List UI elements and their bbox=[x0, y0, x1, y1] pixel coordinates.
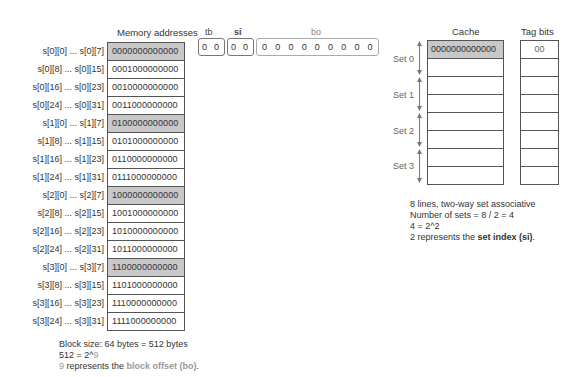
cache-line bbox=[428, 59, 503, 77]
memory-address-cell: 1111000000000 bbox=[108, 313, 184, 331]
block-offset-term: block offset (bo) bbox=[127, 361, 197, 371]
tag-bits-table: 00 bbox=[520, 40, 559, 185]
set-2-range-arrow-icon bbox=[416, 113, 423, 147]
cache-line bbox=[428, 113, 503, 131]
block-offset-text: represents the bbox=[64, 361, 127, 371]
cache-line bbox=[428, 149, 503, 167]
memory-row-label: s[3][24] ... s[3][31] bbox=[32, 312, 104, 330]
memory-row-label: s[3][16] ... s[3][23] bbox=[32, 294, 104, 312]
cache-title: Cache bbox=[452, 26, 479, 37]
tag-bits-cell bbox=[521, 131, 558, 149]
memory-address-cell: 1001000000000 bbox=[108, 205, 184, 223]
block-offset-bit: 0 bbox=[271, 42, 284, 52]
memory-row-label: s[1][0] ... s[1][7] bbox=[42, 114, 104, 132]
set-index-bit: 0 bbox=[241, 42, 250, 52]
block-offset-bit: 0 bbox=[324, 42, 337, 52]
block-size-line: Block size: 64 bytes = 512 bytes bbox=[59, 339, 199, 350]
memory-row-label: s[2][8] ... s[2][15] bbox=[37, 204, 104, 222]
set-1-range-arrow-icon bbox=[416, 77, 423, 111]
cache-lines-line: 8 lines, two-way set associative bbox=[410, 199, 536, 210]
set-index-term: set index (si) bbox=[478, 232, 533, 242]
tag-bits-cell bbox=[521, 113, 558, 131]
memory-row-label: s[3][8] ... s[3][15] bbox=[37, 276, 104, 294]
memory-row-label: s[0][8] ... s[0][15] bbox=[37, 60, 104, 78]
memory-row-label: s[1][24] ... s[1][31] bbox=[32, 168, 104, 186]
sets-power-line: 4 = 2^2 bbox=[410, 221, 536, 232]
cache-line bbox=[428, 77, 503, 95]
memory-row-label: s[3][0] ... s[3][7] bbox=[42, 258, 104, 276]
memory-address-cell: 1101000000000 bbox=[108, 277, 184, 295]
set-3-range-arrow-icon bbox=[416, 149, 423, 183]
number-of-sets-line: Number of sets = 8 / 2 = 4 bbox=[410, 210, 536, 221]
memory-address-cell: 1000000000000 bbox=[108, 187, 184, 205]
set-index-line: 2 represents the set index (si). bbox=[410, 232, 536, 243]
tag-bit: 0 bbox=[200, 42, 209, 52]
block-offset-bit: 0 bbox=[337, 42, 350, 52]
memory-row-label: s[1][8] ... s[1][15] bbox=[37, 132, 104, 150]
memory-row-label: s[2][24] ... s[2][31] bbox=[32, 240, 104, 258]
memory-address-cell: 0010000000000 bbox=[108, 79, 184, 97]
cache-line bbox=[428, 167, 503, 185]
tag-bit: 0 bbox=[212, 42, 221, 52]
memory-row-label: s[0][0] ... s[0][7] bbox=[42, 42, 104, 60]
set-index-bit: 0 bbox=[229, 42, 238, 52]
block-offset-bit: 0 bbox=[284, 42, 297, 52]
memory-address-cell: 1110000000000 bbox=[108, 295, 184, 313]
cache-line: 0000000000000 bbox=[428, 41, 503, 59]
tag-bits-cell bbox=[521, 149, 558, 167]
memory-address-cell: 0111000000000 bbox=[108, 169, 184, 187]
tb-label: tb bbox=[205, 27, 213, 37]
tag-bits-cell: 00 bbox=[521, 41, 558, 59]
block-offset-bit: 0 bbox=[311, 42, 324, 52]
tag-bits-title: Tag bits bbox=[521, 26, 554, 37]
block-offset-bit: 0 bbox=[350, 42, 363, 52]
set-label-1: Set 1 bbox=[393, 90, 414, 100]
memory-address-cell: 0011000000000 bbox=[108, 97, 184, 115]
block-size-notes: Block size: 64 bytes = 512 bytes 512 = 2… bbox=[59, 339, 199, 372]
block-offset-bit: 0 bbox=[258, 42, 271, 52]
tag-bits-cell bbox=[521, 95, 558, 113]
block-power-base: 512 = 2^ bbox=[59, 350, 94, 360]
memory-address-cell: 0001000000000 bbox=[108, 61, 184, 79]
block-offset-end: . bbox=[197, 361, 200, 371]
memory-address-cell: 0000000000000 bbox=[108, 43, 184, 61]
tag-bits-cell bbox=[521, 167, 558, 185]
memory-row-label: s[0][16] ... s[0][23] bbox=[32, 78, 104, 96]
set-label-3: Set 3 bbox=[393, 161, 414, 171]
memory-row-label: s[2][16] ... s[2][23] bbox=[32, 222, 104, 240]
tag-bits-field: 0 0 bbox=[198, 38, 225, 56]
block-offset-line: 9 represents the block offset (bo). bbox=[59, 361, 199, 372]
set-index-end: . bbox=[533, 232, 536, 242]
memory-addresses-title: Memory addresses bbox=[117, 27, 198, 38]
memory-row-label: s[0][24] ... s[0][31] bbox=[32, 96, 104, 114]
block-offset-field: 0 0 0 0 0 0 0 0 0 bbox=[256, 38, 379, 56]
block-power-exponent: 9 bbox=[94, 350, 99, 360]
tag-bits-cell bbox=[521, 77, 558, 95]
memory-address-table: 0000000000000 0001000000000 001000000000… bbox=[107, 42, 185, 331]
cache-table: 0000000000000 bbox=[427, 40, 504, 185]
set-label-0: Set 0 bbox=[393, 54, 414, 64]
set-index-text: 2 represents the bbox=[410, 232, 478, 242]
memory-address-cell: 1011000000000 bbox=[108, 241, 184, 259]
memory-address-cell: 0110000000000 bbox=[108, 151, 184, 169]
memory-address-cell: 0101000000000 bbox=[108, 133, 184, 151]
block-power-line: 512 = 2^9 bbox=[59, 350, 199, 361]
set-0-range-arrow-icon bbox=[416, 41, 423, 75]
memory-address-cell: 0100000000000 bbox=[108, 115, 184, 133]
block-offset-bit: 0 bbox=[298, 42, 311, 52]
set-index-field: 0 0 bbox=[227, 38, 254, 56]
memory-address-cell: 1010000000000 bbox=[108, 223, 184, 241]
set-label-2: Set 2 bbox=[393, 126, 414, 136]
memory-row-label: s[2][0] ... s[2][7] bbox=[42, 186, 104, 204]
cache-line bbox=[428, 95, 503, 113]
si-label: si bbox=[234, 27, 242, 37]
cache-notes: 8 lines, two-way set associative Number … bbox=[410, 199, 536, 243]
memory-row-label: s[1][16] ... s[1][23] bbox=[32, 150, 104, 168]
tag-bits-cell bbox=[521, 59, 558, 77]
bo-label: bo bbox=[311, 27, 321, 37]
memory-address-cell: 1100000000000 bbox=[108, 259, 184, 277]
cache-line bbox=[428, 131, 503, 149]
block-offset-bit: 0 bbox=[364, 42, 377, 52]
